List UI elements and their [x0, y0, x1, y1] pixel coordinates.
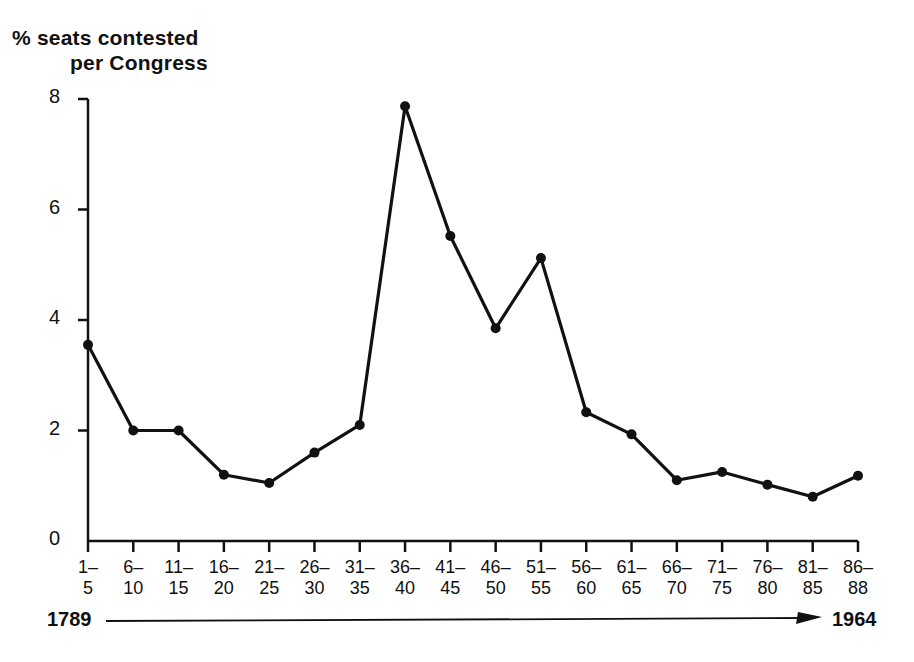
data-point[interactable]	[762, 480, 772, 490]
timeline-line	[106, 618, 806, 621]
data-point[interactable]	[445, 231, 455, 241]
data-point[interactable]	[808, 492, 818, 502]
y-axis-tick-label: 6	[32, 196, 60, 219]
data-point[interactable]	[128, 426, 138, 436]
data-point[interactable]	[491, 323, 501, 333]
x-axis-tick-label: 86–88	[830, 557, 886, 599]
data-point[interactable]	[83, 340, 93, 350]
timeline-arrowhead	[796, 612, 822, 624]
data-point[interactable]	[853, 471, 863, 481]
x-tick-range-end: 88	[830, 578, 886, 599]
y-axis-tick-label: 4	[32, 306, 60, 329]
timeline-end-label: 1964	[832, 608, 877, 631]
series-line	[88, 106, 858, 497]
y-axis-tick-label: 0	[32, 527, 60, 550]
y-axis-tick-label: 8	[32, 85, 60, 108]
x-tick-range-start: 86–	[830, 557, 886, 578]
data-point[interactable]	[174, 426, 184, 436]
data-point[interactable]	[536, 253, 546, 263]
data-point[interactable]	[627, 429, 637, 439]
data-point[interactable]	[309, 448, 319, 458]
data-point[interactable]	[264, 478, 274, 488]
timeline-arrow	[106, 612, 822, 624]
timeline-start-label: 1789	[47, 608, 92, 631]
axes	[78, 99, 858, 552]
data-point[interactable]	[717, 467, 727, 477]
data-point[interactable]	[219, 470, 229, 480]
y-axis-tick-label: 2	[32, 417, 60, 440]
figure: % seats contested per Congress 02468 1–5…	[0, 0, 914, 662]
data-point[interactable]	[355, 420, 365, 430]
data-series	[83, 101, 863, 502]
data-point[interactable]	[581, 407, 591, 417]
data-point[interactable]	[672, 475, 682, 485]
data-point[interactable]	[400, 101, 410, 111]
